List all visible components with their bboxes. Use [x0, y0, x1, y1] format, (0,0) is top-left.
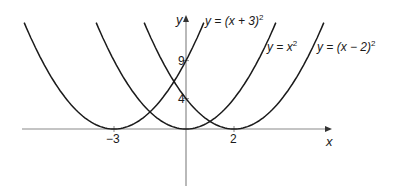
curve-label-x-plus-3: y = (x + 3)2	[204, 13, 264, 28]
y-tick-label-9: 9	[178, 54, 185, 68]
curve-x-plus-3-squared	[24, 23, 204, 129]
curve-label-x-minus-2: y = (x − 2)2	[316, 39, 376, 54]
parabola-plot: −3 2 4 9 x y y = (x + 3)2 y = x2 y = (x …	[0, 0, 394, 194]
chart-root: −3 2 4 9 x y y = (x + 3)2 y = x2 y = (x …	[0, 0, 394, 194]
y-axis-label: y	[175, 12, 184, 27]
y-tick-label-4: 4	[178, 92, 185, 106]
x-tick-label-2: 2	[230, 132, 237, 146]
x-axis-label: x	[325, 134, 333, 149]
curve-label-x-squared: y = x2	[266, 39, 298, 54]
x-axis-arrow-icon	[325, 126, 332, 132]
x-tick-label-neg3: −3	[106, 132, 120, 146]
y-axis-arrow-icon	[183, 15, 189, 22]
